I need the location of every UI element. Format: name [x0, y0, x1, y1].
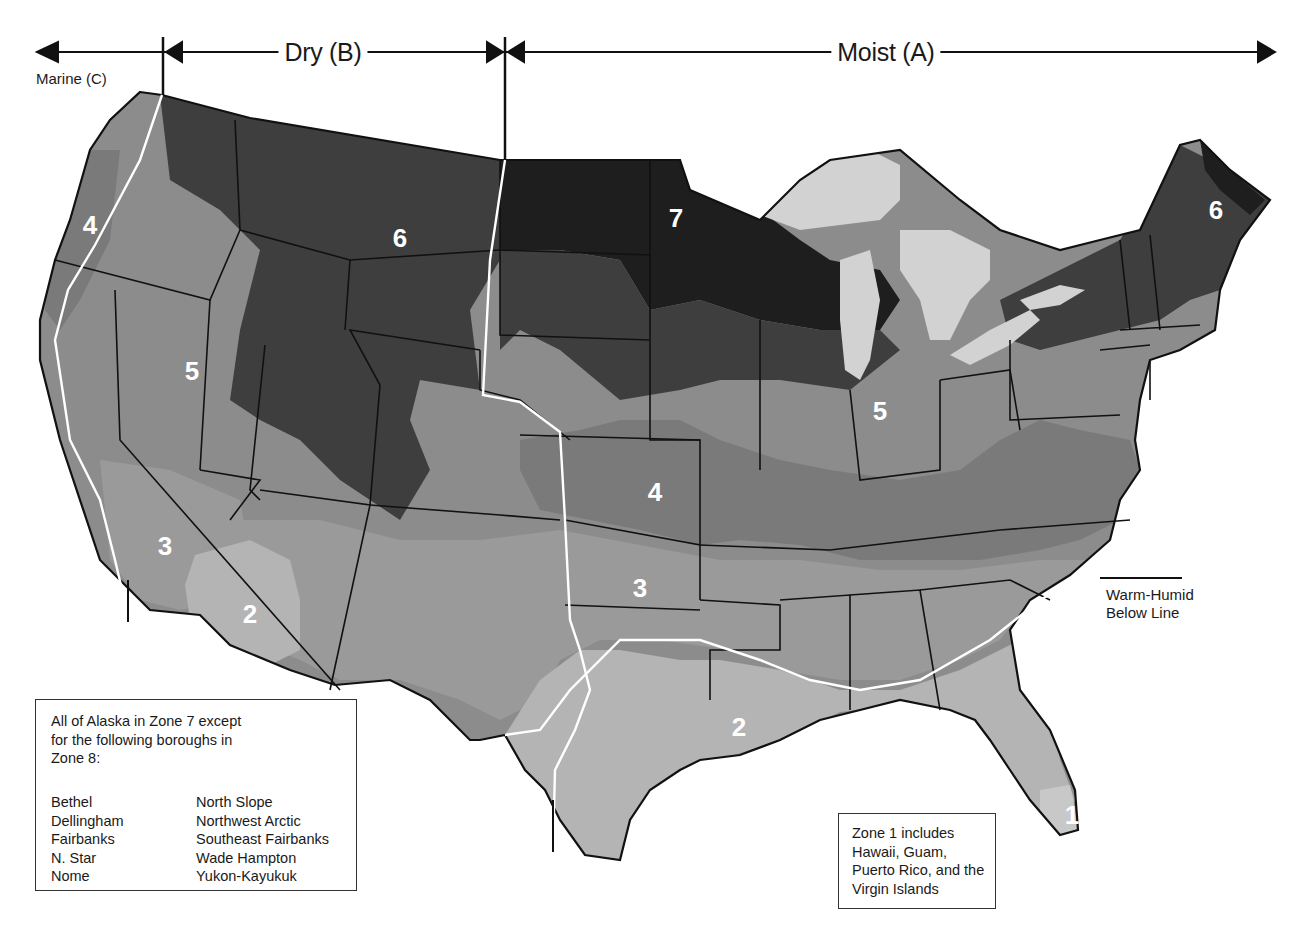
borough-item: Northwest Arctic: [196, 812, 329, 831]
climate-zone-map: Dry (B) Moist (A) Marine (C) 4 6 7 6 5 5…: [0, 0, 1302, 932]
zone1-note-box: Zone 1 includes Hawaii, Guam, Puerto Ric…: [838, 813, 996, 909]
marine-regime-label: Marine (C): [36, 70, 107, 87]
borough-item: N. Star: [51, 849, 124, 868]
zone-label-6-maine: 6: [1209, 195, 1223, 226]
borough-item: Bethel: [51, 793, 124, 812]
zone-label-2-louisiana: 2: [732, 712, 746, 743]
borough-item: Fairbanks: [51, 830, 124, 849]
warm-humid-annotation: Warm-Humid Below Line: [1106, 586, 1194, 622]
zone-label-5-nevada: 5: [185, 356, 199, 387]
warm-humid-line1: Warm-Humid: [1106, 586, 1194, 604]
zone-label-3-oklahoma: 3: [633, 573, 647, 604]
dry-regime-label: Dry (B): [278, 38, 367, 66]
moist-regime-label: Moist (A): [831, 38, 940, 66]
borough-item: Wade Hampton: [196, 849, 329, 868]
zone1-note-text: Zone 1 includes Hawaii, Guam, Puerto Ric…: [852, 824, 992, 898]
alaska-note-box: All of Alaska in Zone 7 except for the f…: [35, 699, 357, 891]
zone-label-4-oregon: 4: [83, 210, 97, 241]
borough-item: North Slope: [196, 793, 329, 812]
zone-label-6-montana: 6: [393, 223, 407, 254]
borough-item: Southeast Fairbanks: [196, 830, 329, 849]
borough-item: Yukon-Kayukuk: [196, 867, 329, 886]
alaska-boroughs-left: Bethel Dellingham Fairbanks N. Star Nome: [51, 793, 124, 886]
warm-humid-line2: Below Line: [1106, 604, 1194, 622]
zone-label-3-california: 3: [158, 531, 172, 562]
zone-label-2-arizona: 2: [243, 599, 257, 630]
borough-item: Nome: [51, 867, 124, 886]
zone-label-1-florida: 1: [1065, 800, 1079, 831]
borough-item: Dellingham: [51, 812, 124, 831]
alaska-boroughs-right: North Slope Northwest Arctic Southeast F…: [196, 793, 329, 886]
zone-label-4-kansas: 4: [648, 477, 662, 508]
zone-label-5-indiana: 5: [873, 396, 887, 427]
zone-label-7-minnesota: 7: [669, 203, 683, 234]
alaska-note-intro: All of Alaska in Zone 7 except for the f…: [51, 712, 251, 768]
